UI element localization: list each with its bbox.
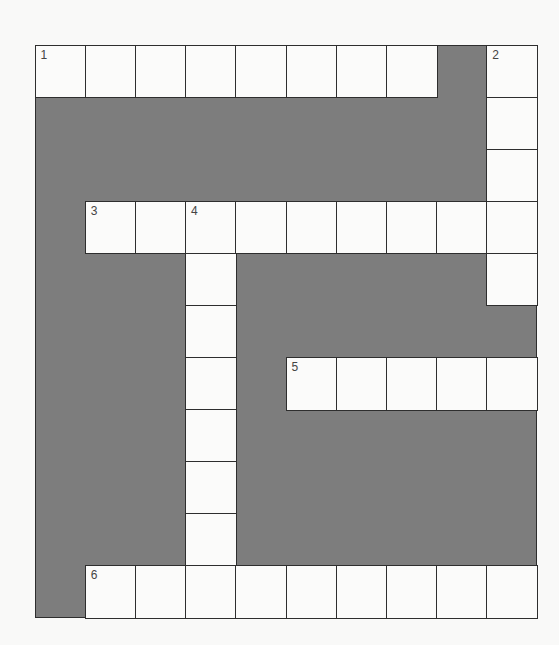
crossword-cell[interactable] [336, 201, 388, 255]
crossword-cell[interactable] [336, 45, 388, 99]
crossword-cell[interactable] [486, 97, 538, 151]
crossword-cell[interactable] [286, 565, 338, 619]
crossword-cell[interactable] [85, 45, 137, 99]
clue-number: 2 [492, 49, 499, 61]
crossword-cell[interactable] [185, 305, 237, 359]
crossword-cell[interactable]: 2 [486, 45, 538, 99]
crossword-cell[interactable] [486, 253, 538, 307]
crossword-cell[interactable] [235, 45, 287, 99]
crossword-cell[interactable] [185, 513, 237, 567]
crossword-cell[interactable] [336, 565, 388, 619]
crossword-cell[interactable] [235, 565, 287, 619]
crossword-cell[interactable]: 1 [35, 45, 87, 99]
crossword-cell[interactable] [486, 565, 538, 619]
crossword-cell[interactable] [185, 253, 237, 307]
crossword-cell[interactable] [235, 201, 287, 255]
clue-number: 6 [91, 569, 98, 581]
crossword-cell[interactable]: 5 [286, 357, 338, 411]
clue-number: 4 [191, 205, 198, 217]
clue-number: 5 [292, 361, 299, 373]
crossword-cell[interactable] [486, 149, 538, 203]
crossword-cell[interactable] [286, 45, 338, 99]
crossword-cell[interactable] [185, 461, 237, 515]
crossword-cell[interactable] [286, 201, 338, 255]
crossword-cell[interactable] [185, 357, 237, 411]
crossword-cell[interactable] [386, 565, 438, 619]
crossword-cell[interactable] [386, 201, 438, 255]
clue-number: 3 [91, 205, 98, 217]
crossword-cell[interactable] [135, 201, 187, 255]
crossword-cell[interactable] [185, 565, 237, 619]
crossword-cell[interactable] [486, 357, 538, 411]
crossword-cell[interactable] [486, 201, 538, 255]
crossword-cell[interactable] [386, 45, 438, 99]
crossword-cell[interactable] [386, 357, 438, 411]
crossword-cell[interactable] [135, 45, 187, 99]
crossword-cell[interactable]: 3 [85, 201, 137, 255]
crossword-grid: 123456 [35, 45, 537, 618]
clue-number: 1 [41, 49, 48, 61]
crossword-cell[interactable] [436, 201, 488, 255]
crossword-cell[interactable] [135, 565, 187, 619]
crossword-cell[interactable] [185, 409, 237, 463]
crossword-cell[interactable] [185, 45, 237, 99]
crossword-cell[interactable]: 4 [185, 201, 237, 255]
crossword-cell[interactable]: 6 [85, 565, 137, 619]
crossword-cell[interactable] [436, 357, 488, 411]
crossword-cell[interactable] [336, 357, 388, 411]
crossword-cell[interactable] [436, 565, 488, 619]
